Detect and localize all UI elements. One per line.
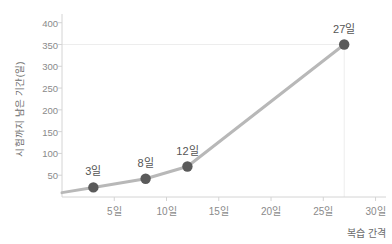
data-point-label: 12일 <box>176 142 198 158</box>
x-axis-title: 복습 간격 <box>347 225 386 240</box>
x-axis-tick-labels: 5일10일15일20일25일30일 <box>0 203 392 223</box>
data-point-markers <box>88 39 349 192</box>
x-tick-label: 15일 <box>209 203 229 218</box>
x-tick-label: 5일 <box>107 203 122 218</box>
x-tick-label: 30일 <box>365 203 385 218</box>
series-line <box>62 45 344 193</box>
x-tick-marks <box>114 197 375 201</box>
data-point-label: 3일 <box>85 162 101 178</box>
gridlines <box>62 45 344 198</box>
axis-spines <box>62 14 386 197</box>
data-point-label: 27일 <box>333 20 355 36</box>
data-point-label: 8일 <box>138 154 154 170</box>
x-tick-label: 10일 <box>156 203 176 218</box>
x-tick-label: 20일 <box>261 203 281 218</box>
y-tick-marks <box>58 23 62 176</box>
x-tick-label: 25일 <box>313 203 333 218</box>
line-chart: 시험까지 남은 기간(일) 50100150200250300350400 5일… <box>0 0 392 244</box>
